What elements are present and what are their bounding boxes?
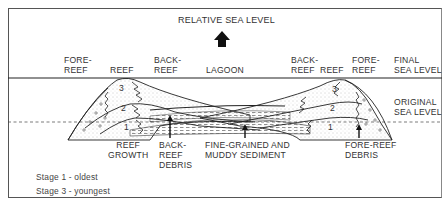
label-left-fore-reef: FORE- REEF	[64, 55, 92, 75]
right-stage-2: 2	[330, 103, 335, 113]
label-fore-reef-debris: FORE-REEF DEBRIS	[345, 140, 396, 160]
right-stage-1: 1	[328, 122, 333, 132]
label-reef-growth: REEF GROWTH	[108, 140, 148, 160]
label-right-fore-reef: FORE- REEF	[352, 55, 380, 75]
label-final-sea-level: FINAL SEA LEVEL	[394, 55, 442, 75]
relative-sea-level-title: RELATIVE SEA LEVEL	[178, 15, 275, 25]
label-fine-grained-sediment: FINE-GRAINED AND MUDDY SEDIMENT	[205, 140, 290, 160]
left-stage-3: 3	[119, 83, 124, 93]
label-original-sea-level: ORIGINAL SEA LEVEL	[394, 97, 442, 117]
label-left-back-reef: BACK- REEF	[154, 55, 181, 75]
label-lagoon: LAGOON	[206, 65, 244, 75]
left-stage-1: 1	[124, 122, 129, 132]
left-stage-2: 2	[121, 103, 126, 113]
legend-stage-1: Stage 1 - oldest	[36, 172, 98, 182]
label-back-reef-debris: BACK- REEF DEBRIS	[159, 140, 192, 170]
label-left-reef: REEF	[110, 65, 134, 75]
right-stage-3: 3	[332, 84, 337, 94]
legend-stage-3: Stage 3 - youngest	[36, 186, 110, 196]
sea-level-rise-arrow-icon	[214, 31, 230, 47]
label-right-back-reef: BACK- REEF	[291, 55, 318, 75]
label-right-reef: REEF	[320, 65, 344, 75]
